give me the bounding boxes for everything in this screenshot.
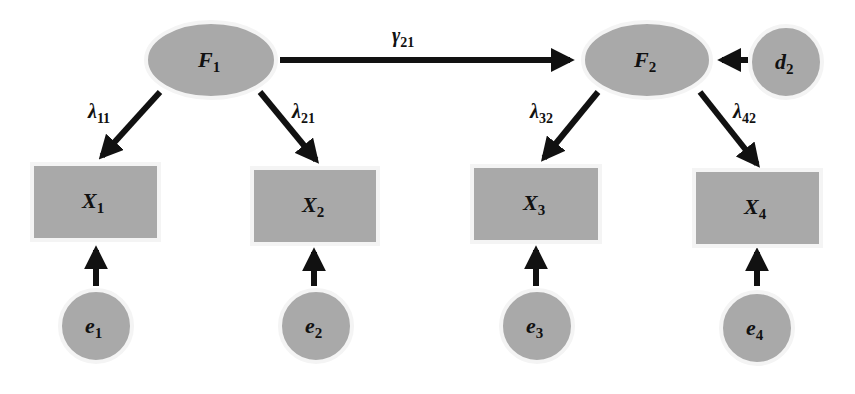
label-lambda-32: λ32 (529, 100, 553, 126)
path-f2-x4 (700, 92, 757, 164)
sem-diagram: γ21 λ11 λ21 λ32 λ42 F1 F2 d2 X1 X2 X3 X4… (0, 0, 855, 394)
node-f2: F2 (583, 22, 711, 98)
node-e2: e2 (280, 290, 352, 362)
node-x3: X3 (472, 166, 600, 242)
label-gamma-21: γ21 (392, 24, 414, 50)
path-f1-x2 (260, 92, 316, 160)
node-x1: X1 (32, 164, 159, 240)
node-e1: e1 (60, 290, 132, 362)
node-e3: e3 (501, 290, 573, 362)
label-lambda-11: λ11 (87, 100, 110, 126)
node-d2: d2 (750, 26, 822, 98)
node-f1: F1 (146, 22, 276, 98)
label-lambda-42: λ42 (732, 100, 756, 126)
node-x4: X4 (694, 170, 821, 246)
path-f1-x1 (102, 92, 160, 156)
node-e4: e4 (721, 292, 793, 364)
label-lambda-21: λ21 (291, 100, 315, 126)
node-x2: X2 (252, 168, 378, 244)
